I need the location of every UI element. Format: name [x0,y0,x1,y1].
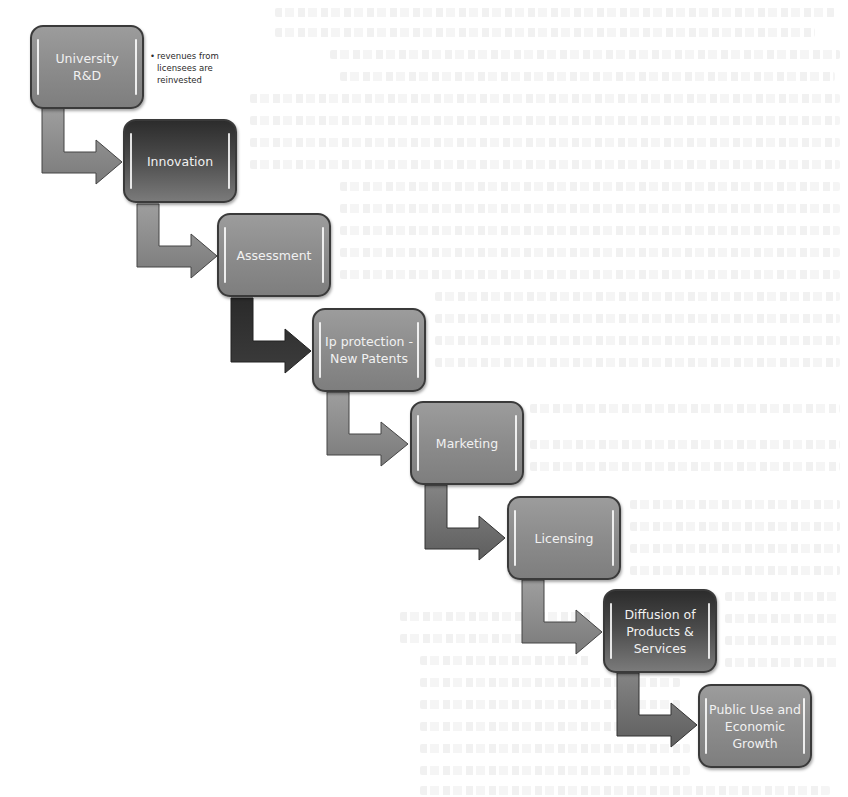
step-ip-protection: Ip protection - New Patents [312,308,426,392]
step-label: Diffusion of Products & Services [616,606,703,657]
step-label: Marketing [428,435,506,452]
step-innovation: Innovation [123,119,237,203]
highlight-left [224,227,226,283]
arrow-rd-to-innovation [42,108,122,184]
arrow-marketing-to-licensing [425,485,505,560]
highlight-left [610,603,612,659]
step-university-rd: University R&D [30,25,144,109]
note-line-1: revenues from [157,51,219,61]
step-diffusion: Diffusion of Products & Services [603,589,717,673]
reinvestment-note: •revenues from licensees are reinvested [150,50,219,86]
step-label: Ip protection - New Patents [317,333,421,367]
highlight-right [708,603,710,659]
flow-arrows [0,0,848,797]
step-public-use: Public Use and Economic Growth [698,684,812,768]
highlight-left [37,39,39,95]
note-line-2: licensees are [150,62,219,74]
arrow-assessment-to-ip-protection [231,298,311,373]
highlight-left [130,133,132,189]
step-label: Assessment [229,247,320,264]
step-label: Licensing [527,530,602,547]
arrow-licensing-to-diffusion [522,580,602,654]
arrow-ip-protection-to-marketing [327,392,408,466]
arrow-diffusion-to-public-use [617,673,697,747]
highlight-right [322,227,324,283]
highlight-right [515,415,517,471]
bullet-icon: • [150,50,157,62]
step-marketing: Marketing [410,401,524,485]
step-label: Public Use and Economic Growth [701,701,809,752]
arrow-innovation-to-assessment [137,204,217,278]
note-line-3: reinvested [150,74,219,86]
step-label: University R&D [47,50,126,84]
highlight-right [612,510,614,566]
highlight-right [135,39,137,95]
step-licensing: Licensing [507,496,621,580]
step-assessment: Assessment [217,213,331,297]
highlight-left [417,415,419,471]
step-label: Innovation [139,153,221,170]
highlight-left [514,510,516,566]
highlight-right [228,133,230,189]
